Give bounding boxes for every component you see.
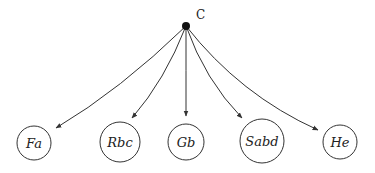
edge-c-to-rbc [132, 26, 186, 118]
nodes: FaRbcGbSabdHe [17, 119, 357, 163]
node-rbc: Rbc [100, 122, 140, 162]
node-label: Sabd [245, 134, 278, 149]
root-node: C [182, 8, 205, 30]
node-label: Gb [177, 135, 196, 150]
node-label: Rbc [106, 135, 133, 150]
edge-c-to-sabd [186, 26, 242, 118]
node-label: He [329, 135, 349, 150]
root-dot [182, 22, 190, 30]
edges [56, 26, 318, 130]
node-sabd: Sabd [240, 119, 284, 163]
node-label: Fa [25, 136, 42, 151]
edge-c-to-fa [56, 26, 186, 128]
node-gb: Gb [168, 124, 204, 160]
edge-c-to-he [186, 26, 318, 130]
tree-diagram: FaRbcGbSabdHe C [0, 0, 375, 173]
node-fa: Fa [17, 126, 51, 160]
node-he: He [323, 125, 357, 159]
root-label: C [196, 8, 205, 22]
